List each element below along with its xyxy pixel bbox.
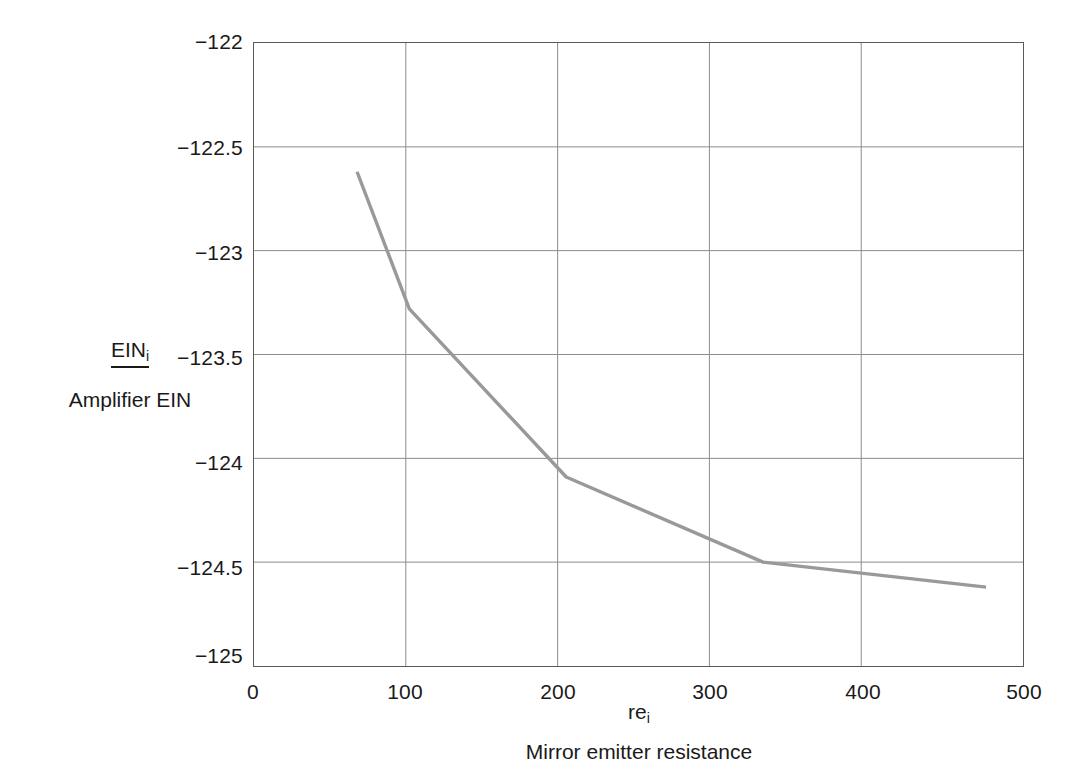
x-axis-tick-labels: 0 100 200 300 400 500 bbox=[0, 0, 1074, 773]
x-tick-label: 100 bbox=[365, 681, 445, 702]
x-tick-label: 500 bbox=[984, 681, 1064, 702]
x-tick-label: 300 bbox=[670, 681, 750, 702]
x-axis-description: Mirror emitter resistance bbox=[439, 740, 839, 764]
x-axis-symbol: rei bbox=[439, 700, 839, 726]
x-axis-title: rei Mirror emitter resistance bbox=[439, 700, 839, 764]
chart-figure: −122 −122.5 −123 −123.5 −124 −124.5 −125… bbox=[0, 0, 1074, 773]
x-axis-symbol-subscript: i bbox=[647, 710, 650, 726]
x-tick-label: 0 bbox=[213, 681, 293, 702]
x-tick-label: 400 bbox=[823, 681, 903, 702]
x-axis-symbol-base: re bbox=[628, 700, 647, 723]
x-tick-label: 200 bbox=[518, 681, 598, 702]
